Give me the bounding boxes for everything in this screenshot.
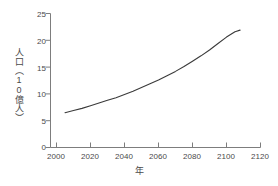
x-axis: [51, 143, 261, 148]
population-curve: [65, 30, 240, 113]
population-line-chart: 人口（10億人） 年 25 20 15 10 5 0 2000 2020 204…: [0, 0, 278, 186]
plot-canvas: [0, 0, 278, 186]
y-axis: [46, 14, 51, 148]
